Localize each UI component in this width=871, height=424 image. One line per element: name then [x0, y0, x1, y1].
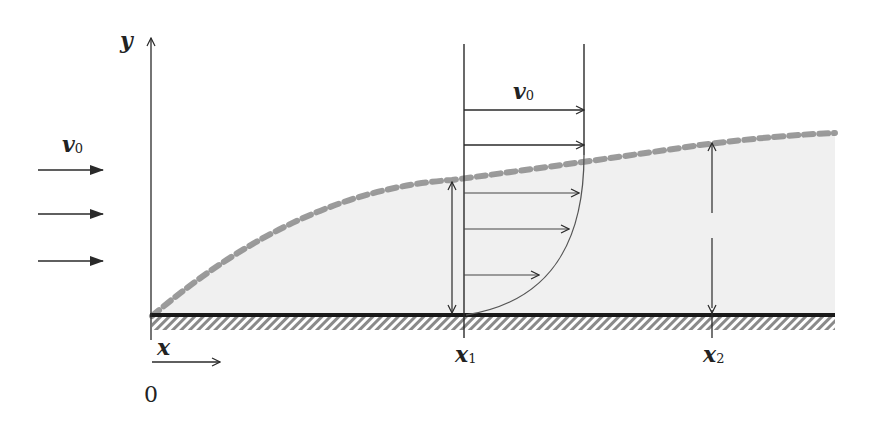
x1-label: x1 [454, 341, 476, 367]
x2-label: x2 [702, 341, 724, 367]
freestream-velocity-label: v0 [62, 131, 83, 157]
x-axis-label: x [156, 334, 171, 360]
profile-velocity-label: v0 [513, 78, 534, 104]
origin-label: 0 [144, 382, 158, 407]
boundary-layer-region [152, 133, 835, 316]
boundary-layer-diagram: y x 0 v0 v0 x1 x2 [0, 0, 871, 424]
wall-hatch [152, 317, 835, 330]
y-axis-label: y [119, 27, 135, 53]
